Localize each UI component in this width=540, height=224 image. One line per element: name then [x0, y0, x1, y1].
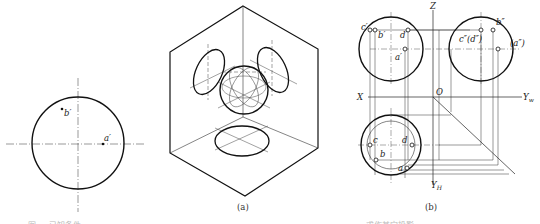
- label-d-prime: d′: [400, 30, 407, 40]
- point-d: [410, 143, 414, 147]
- top-view: c d b a: [358, 108, 440, 184]
- point-b-dprime: [491, 28, 495, 32]
- central-sphere: [218, 62, 270, 114]
- point-a-dprime: [496, 47, 500, 51]
- cube-outline: [170, 6, 318, 196]
- caption-left-partial: 图 … 已知条件: [28, 220, 81, 224]
- figure-a-isometric: (a): [170, 6, 318, 212]
- label-d: d: [402, 135, 408, 145]
- side-view: b″ c″(d″) (a″): [444, 12, 525, 86]
- label-b-dprime: b″: [496, 17, 505, 27]
- axis-label-x: X: [356, 92, 364, 102]
- point-a: [405, 166, 409, 170]
- axis-label-yw: Yw: [523, 92, 535, 103]
- caption-a: (a): [237, 202, 249, 212]
- point-c: [368, 143, 372, 147]
- point-cd-dprime: [479, 28, 483, 32]
- cube-inner-edge-left: [170, 117, 243, 153]
- point-b-prime: [61, 108, 64, 111]
- front-view: c′ b′ d′ a′: [359, 12, 442, 86]
- label-b-prime: b′: [64, 108, 71, 118]
- miter-line-45: [433, 97, 515, 174]
- point-a-prime: [102, 143, 105, 146]
- floor-projection: [215, 126, 269, 156]
- diagram-canvas: b′ a′ 图 … 已知条件: [0, 0, 540, 224]
- floor-ellipse: [215, 126, 269, 156]
- axis-label-o: O: [436, 87, 443, 97]
- label-a-dprime: (a″): [510, 38, 525, 48]
- point-b: [374, 158, 378, 162]
- axis-label-z: Z: [429, 1, 437, 11]
- caption-bottom-partial: ……求作其它投影: [350, 220, 414, 224]
- label-cd-dprime: c″(d″): [459, 34, 482, 44]
- point-b-prime-b: [373, 28, 377, 32]
- point-a-prime-b: [403, 47, 407, 51]
- label-c-prime: c′: [361, 22, 368, 32]
- label-a-prime: a′: [104, 133, 111, 143]
- sphere-outline-iso: [220, 66, 268, 114]
- label-a-prime-b: a′: [395, 52, 402, 62]
- axis-label-yh: YH: [431, 180, 443, 191]
- label-b-prime-b: b′: [378, 30, 385, 40]
- figure-b-three-views: Z X O Yw YH: [350, 1, 535, 224]
- point-c-prime: [368, 28, 372, 32]
- label-c: c: [373, 135, 378, 145]
- caption-b: (b): [425, 202, 437, 212]
- label-b: b: [380, 149, 385, 159]
- left-figure: b′ a′ 图 … 已知条件: [6, 78, 144, 224]
- label-a: a: [398, 163, 403, 173]
